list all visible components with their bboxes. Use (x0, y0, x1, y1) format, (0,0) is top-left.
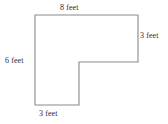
dimension-label-bottom: 3 feet (39, 109, 58, 118)
l-shape-outline (35, 15, 138, 105)
dimension-label-left: 6 feet (5, 56, 24, 65)
figure-canvas: 8 feet 3 feet 6 feet 3 feet (0, 0, 168, 124)
l-shape-polygon (0, 0, 168, 124)
dimension-label-right: 3 feet (140, 31, 159, 40)
dimension-label-top: 8 feet (60, 3, 79, 12)
